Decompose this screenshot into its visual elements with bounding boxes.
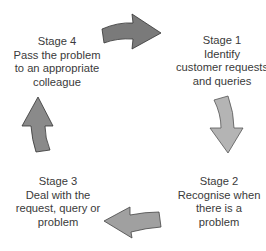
stage-text: request, query or <box>10 202 106 216</box>
stage-1-label: Stage 1 Identify customer requests and q… <box>172 34 266 88</box>
stage-text: and queries <box>172 75 266 89</box>
stage-text: problem <box>10 216 106 230</box>
stage-text: Identify <box>172 48 266 62</box>
stage-title: Stage 1 <box>172 34 266 48</box>
stage-title: Stage 4 <box>8 35 106 49</box>
stage-3-label: Stage 3 Deal with the request, query or … <box>10 175 106 229</box>
arrow-up-icon <box>22 97 53 152</box>
stage-4-label: Stage 4 Pass the problem to an appropria… <box>8 35 106 89</box>
stage-text: Deal with the <box>10 189 106 203</box>
arrow-left-icon <box>104 207 161 238</box>
stage-text: customer requests <box>172 61 266 75</box>
stage-text: Pass the problem <box>8 49 106 63</box>
stage-title: Stage 2 <box>172 175 266 189</box>
stage-text: colleague <box>8 76 106 90</box>
stage-2-label: Stage 2 Recognise when there is a proble… <box>172 175 266 229</box>
stage-title: Stage 3 <box>10 175 106 189</box>
arrow-down-icon <box>210 96 243 153</box>
stage-text: there is a <box>172 202 266 216</box>
cycle-diagram: Stage 1 Identify customer requests and q… <box>0 0 266 251</box>
stage-text: to an appropriate <box>8 62 106 76</box>
stage-text: Recognise when <box>172 189 266 203</box>
stage-text: problem <box>172 216 266 230</box>
arrow-right-icon <box>102 14 161 49</box>
